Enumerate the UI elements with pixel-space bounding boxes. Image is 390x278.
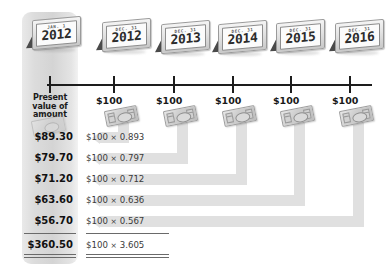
- timeline-tick-3: [232, 76, 234, 93]
- multiplication-sign: ×: [111, 217, 117, 226]
- present-value-row-0: $89.30: [22, 131, 78, 142]
- sign-year-label: 2012: [107, 28, 146, 44]
- sign-year-label: 2015: [281, 29, 320, 45]
- cash-flow-label-1: $100: [156, 95, 182, 106]
- cash-flow-label-0: $100: [96, 95, 122, 106]
- calendar-sign-dec-31-2016: DEC. 31 2016: [329, 21, 383, 55]
- multiplication-sign: ×: [111, 175, 117, 184]
- discount-factor: 0.893: [120, 132, 145, 142]
- banknote-face: [163, 105, 198, 127]
- connector-vertical-3: [294, 123, 305, 195]
- timeline-tick-0: [49, 76, 51, 93]
- multiplication-sign: ×: [111, 154, 117, 163]
- timeline-axis: [47, 84, 372, 86]
- cash-flow-label-2: $100: [215, 95, 241, 106]
- banknote-icon-3: [280, 105, 315, 127]
- banknote-face: [104, 105, 139, 127]
- banknote-face: [222, 105, 257, 127]
- expression-amount: $100: [86, 216, 108, 226]
- discount-factor: 0.567: [120, 216, 145, 226]
- total-expression-row: $100 × 3.605: [86, 240, 144, 250]
- banknote-oval: [292, 111, 309, 124]
- sign-year-label: 2014: [223, 30, 262, 46]
- present-value-caption: Present value of amount: [22, 94, 78, 120]
- calendar-sign-dec-31-2014: DEC. 31 2014: [212, 22, 266, 56]
- cash-flow-label-3: $100: [273, 95, 299, 106]
- sign-plate: DEC. 31 2015: [276, 19, 325, 53]
- sign-inner: DEC. 31 2014: [222, 24, 263, 51]
- total-rule-bottom-1: [24, 254, 76, 255]
- sign-plate: DEC. 31 2013: [161, 20, 210, 54]
- calendar-sign-dec-31-2013: DEC. 31 2013: [155, 22, 209, 56]
- total-expression-rule-bottom-1: [86, 254, 169, 255]
- banknote-corner: [108, 115, 116, 123]
- expression-row-2: $100 × 0.712: [86, 174, 144, 184]
- banknote-corner: [343, 115, 351, 123]
- total-rule-top: [24, 233, 76, 234]
- timeline-tick-4: [290, 76, 292, 93]
- present-value-row-1: $79.70: [22, 152, 78, 163]
- sign-inner: DEC. 31 2016: [339, 23, 380, 50]
- present-value-row-3: $63.60: [22, 194, 78, 205]
- sign-inner: JAN. 1 2012: [36, 20, 77, 47]
- total-expression-rule-top: [86, 233, 169, 234]
- multiplication-sign: ×: [111, 241, 117, 250]
- sign-plate: DEC. 31 2012: [102, 18, 151, 52]
- sign-inner: DEC. 31 2013: [165, 24, 206, 51]
- banknote-corner: [226, 115, 234, 123]
- expression-amount: $100: [86, 153, 108, 163]
- banknote-icon-2: [222, 105, 257, 127]
- expression-amount: $100: [86, 195, 108, 205]
- banknote-oval: [175, 111, 192, 124]
- connector-vertical-2: [236, 123, 247, 174]
- expression-amount: $100: [86, 132, 108, 142]
- timeline-tick-1: [113, 76, 115, 93]
- present-value-row-4: $56.70: [22, 215, 78, 226]
- connector-vertical-1: [177, 123, 188, 153]
- banknote-oval: [116, 111, 133, 124]
- expression-row-4: $100 × 0.567: [86, 216, 144, 226]
- present-value-row-2: $71.20: [22, 173, 78, 184]
- expression-row-1: $100 × 0.797: [86, 153, 144, 163]
- banknote-corner: [167, 115, 175, 123]
- sign-inner: DEC. 31 2015: [280, 23, 321, 50]
- banknote-icon-1: [163, 105, 198, 127]
- banknote-oval: [351, 111, 368, 124]
- discount-factor: 0.636: [120, 195, 145, 205]
- calendar-sign-dec-31-2012: DEC. 31 2012: [96, 20, 150, 54]
- total-discount-factor: 3.605: [120, 240, 145, 250]
- sign-plate: JAN. 1 2012: [32, 16, 81, 50]
- sign-plate: DEC. 31 2016: [335, 19, 384, 53]
- calendar-sign-jan-1-2012: JAN. 1 2012: [26, 18, 80, 52]
- multiplication-sign: ×: [111, 196, 117, 205]
- calendar-sign-dec-31-2015: DEC. 31 2015: [270, 21, 324, 55]
- discount-factor: 0.712: [120, 174, 145, 184]
- sign-year-label: 2012: [37, 26, 76, 42]
- multiplication-sign: ×: [111, 133, 117, 142]
- sign-year-label: 2016: [340, 29, 379, 45]
- diagram-canvas: JAN. 1 2012 DEC. 31 2012 DEC. 31 2013: [0, 0, 390, 278]
- banknote-icon-0: [104, 105, 139, 127]
- banknote-icon-4: [339, 105, 374, 127]
- timeline-tick-2: [173, 76, 175, 93]
- sign-plate: DEC. 31 2014: [218, 20, 267, 54]
- sign-year-label: 2013: [166, 30, 205, 46]
- timeline-tick-5: [349, 76, 351, 93]
- banknote-corner: [284, 115, 292, 123]
- expression-amount: $100: [86, 174, 108, 184]
- expression-row-3: $100 × 0.636: [86, 195, 144, 205]
- discount-factor: 0.797: [120, 153, 145, 163]
- banknote-face: [339, 105, 374, 127]
- cash-flow-label-4: $100: [332, 95, 358, 106]
- banknote-face: [280, 105, 315, 127]
- expression-row-0: $100 × 0.893: [86, 132, 144, 142]
- banknote-oval: [234, 111, 251, 124]
- expression-amount: $100: [86, 240, 108, 250]
- connector-vertical-4: [353, 123, 364, 216]
- total-rule-bottom-2: [24, 257, 76, 258]
- total-present-value: $360.50: [22, 239, 78, 250]
- sign-inner: DEC. 31 2012: [106, 22, 147, 49]
- total-expression-rule-bottom-2: [86, 257, 169, 258]
